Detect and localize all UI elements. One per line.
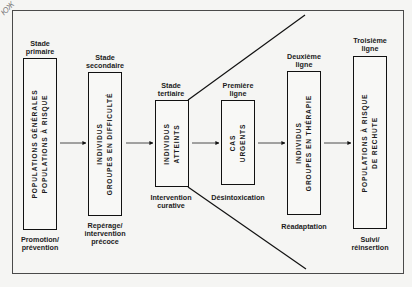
caption-secondaire: Repérage/ intervention précoce [84, 222, 125, 246]
stage-title-secondaire: Stade secondaire [86, 54, 124, 70]
box-troisieme-ligne: POPULATIONS À RISQUE DE RECHUTE [353, 56, 387, 229]
connectors [0, 0, 412, 287]
box-secondaire: INDIVIDUS GROUPES EN DIFFICULTÉ [88, 72, 122, 216]
box-text-primaire: POPULATIONS GÉNÉRALES POPULATIONS À RISQ… [30, 90, 50, 199]
stage-title-premiere-ligne: Première ligne [223, 82, 254, 98]
box-deuxieme-ligne: INDIVIDUS GROUPES EN THÉRAPIE [287, 71, 321, 215]
caption-premiere-ligne: Désintoxication [211, 194, 265, 202]
box-text-troisieme-ligne: POPULATIONS À RISQUE DE RECHUTE [360, 93, 380, 192]
box-text-secondaire: INDIVIDUS GROUPES EN DIFFICULTÉ [95, 93, 115, 196]
stage-title-primaire: Stade primaire [26, 40, 54, 56]
caption-primaire: Promotion/ prévention [21, 236, 59, 252]
stage-title-troisieme-ligne: Troisième ligne [353, 37, 387, 53]
stage-title-deuxieme-ligne: Deuxième ligne [287, 53, 321, 69]
caption-tertiaire: Intervention curative [150, 194, 191, 210]
stage-title-tertiaire: Stade tertiaire [158, 82, 184, 98]
prevention-continuum-diagram: ЮЖ Stade primaire POPULATIONS GÉNÉRALES … [0, 0, 412, 287]
caption-deuxieme-ligne: Réadaptation [281, 223, 327, 231]
box-premiere-ligne: CAS URGENTS [221, 100, 255, 185]
box-text-tertiaire: INDIVIDUS ATTEINTS [162, 123, 182, 164]
box-text-premiere-ligne: CAS URGENTS [228, 123, 248, 162]
caption-troisieme-ligne: Suivi/ réinsertion [351, 236, 388, 252]
box-tertiaire: INDIVIDUS ATTEINTS [155, 100, 189, 187]
box-primaire: POPULATIONS GÉNÉRALES POPULATIONS À RISQ… [23, 58, 57, 230]
box-text-deuxieme-ligne: INDIVIDUS GROUPES EN THÉRAPIE [294, 95, 314, 191]
